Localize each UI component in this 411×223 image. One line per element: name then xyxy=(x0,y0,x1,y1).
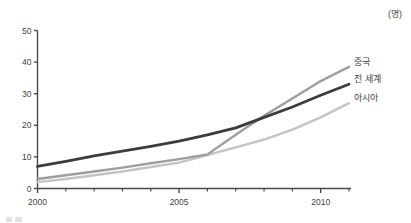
svg-text:50: 50 xyxy=(22,26,32,36)
series-lines xyxy=(38,67,350,182)
svg-text:2010: 2010 xyxy=(311,197,330,207)
series-label-asia: 아시아 xyxy=(354,94,378,103)
page-edge-artifact xyxy=(6,217,22,222)
series-label-world: 전 세계 xyxy=(354,75,381,84)
svg-text:2005: 2005 xyxy=(170,197,189,207)
chart-plot-area: 01020304050 200020052010 xyxy=(0,0,411,223)
line-chart: (명) 01020304050 200020052010 중국 전 세계 아시아 xyxy=(0,0,411,223)
svg-text:30: 30 xyxy=(22,89,32,99)
series-label-china: 중국 xyxy=(354,58,370,67)
svg-text:40: 40 xyxy=(22,57,32,67)
svg-text:2000: 2000 xyxy=(28,197,47,207)
x-axis: 200020052010 xyxy=(28,189,351,207)
y-axis: 01020304050 xyxy=(22,26,37,194)
svg-text:20: 20 xyxy=(22,120,32,130)
svg-text:10: 10 xyxy=(22,152,32,162)
svg-text:0: 0 xyxy=(27,184,32,194)
